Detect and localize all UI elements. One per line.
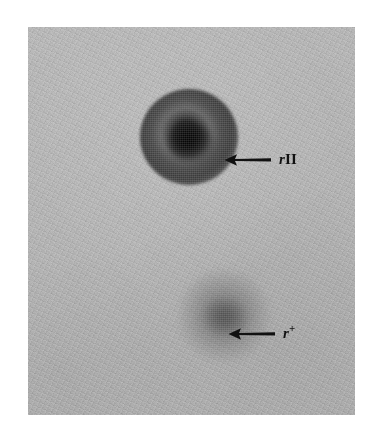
allele-rplus: + (289, 322, 295, 334)
annotation-label-rii: rII (279, 152, 297, 167)
plaque-assay-photograph: rII r+ (28, 27, 355, 415)
annotation-rplus: r+ (228, 326, 296, 341)
annotation-label-rplus: r+ (283, 326, 296, 341)
annotation-rii: rII (224, 152, 297, 167)
figure-root: rII r+ (0, 0, 381, 443)
arrow-left-icon (224, 153, 272, 167)
film-grain-texture-secondary (28, 27, 355, 415)
allele-rii: II (285, 151, 297, 167)
arrow-left-icon (228, 327, 276, 341)
